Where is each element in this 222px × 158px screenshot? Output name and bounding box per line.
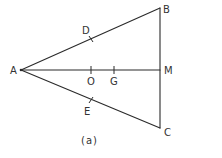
label-g: G bbox=[110, 76, 118, 87]
label-e: E bbox=[84, 106, 90, 117]
figure-caption: (a) bbox=[81, 135, 98, 146]
label-c: C bbox=[164, 127, 171, 138]
label-b: B bbox=[163, 4, 170, 15]
vertex-a-dot bbox=[20, 69, 23, 72]
label-a: A bbox=[10, 65, 17, 76]
label-d: D bbox=[82, 25, 90, 36]
triangle-diagram: A B M C D E O G (a) bbox=[0, 0, 222, 158]
label-m: M bbox=[164, 65, 173, 76]
label-o: O bbox=[87, 76, 95, 87]
